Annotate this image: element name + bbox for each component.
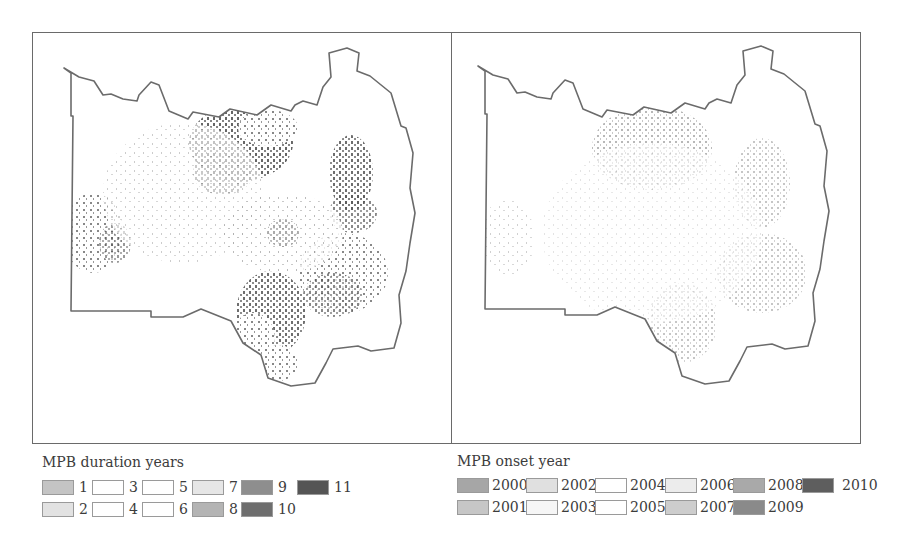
swatch — [142, 480, 174, 495]
legend-label: 6 — [179, 501, 188, 517]
legend-label: 7 — [229, 479, 238, 495]
swatch — [241, 502, 273, 517]
legend-label: 2000 — [492, 477, 528, 493]
swatch — [733, 478, 765, 493]
onset-legend-item-2005: 2005 — [595, 499, 666, 515]
swatch — [595, 500, 627, 515]
duration-legend-item-1: 1 — [42, 479, 88, 495]
legend-label: 2010 — [842, 477, 878, 493]
legend-label: 2006 — [700, 477, 736, 493]
onset-legend-item-2000: 2000 — [457, 477, 528, 493]
duration-legend-item-5: 5 — [142, 479, 188, 495]
legend-label: 9 — [278, 479, 287, 495]
duration-map — [33, 33, 453, 445]
legend-label: 2009 — [768, 499, 804, 515]
duration-legend-item-2: 2 — [42, 501, 88, 517]
legend-label: 4 — [129, 501, 138, 517]
legend-label: 5 — [179, 479, 188, 495]
swatch — [192, 502, 224, 517]
onset-map-panel — [451, 32, 861, 444]
duration-legend-item-6: 6 — [142, 501, 188, 517]
duration-legend-item-7: 7 — [192, 479, 238, 495]
onset-legend-item-2007: 2007 — [665, 499, 736, 515]
duration-legend-item-3: 3 — [92, 479, 138, 495]
onset-legend-item-2003: 2003 — [526, 499, 597, 515]
duration-map-panel — [32, 32, 452, 444]
swatch — [595, 478, 627, 493]
onset-map — [452, 33, 862, 445]
legend-label: 2007 — [700, 499, 736, 515]
legend-label: 2002 — [561, 477, 597, 493]
swatch — [457, 500, 489, 515]
swatch — [42, 502, 74, 517]
figure: MPB duration years 1 2 3 4 5 6 7 — [0, 0, 899, 548]
duration-legend-item-9: 9 — [241, 479, 287, 495]
legend-label: 2003 — [561, 499, 597, 515]
legend-label: 11 — [334, 479, 352, 495]
legend-label: 1 — [79, 479, 88, 495]
legend-label: 2001 — [492, 499, 528, 515]
swatch — [733, 500, 765, 515]
onset-legend-item-2009: 2009 — [733, 499, 804, 515]
onset-legend-item-2008: 2008 — [733, 477, 804, 493]
duration-legend-item-11: 11 — [297, 479, 352, 495]
swatch — [42, 480, 74, 495]
legend-label: 3 — [129, 479, 138, 495]
swatch — [192, 480, 224, 495]
duration-legend-item-10: 10 — [241, 501, 296, 517]
legend-label: 2004 — [630, 477, 666, 493]
swatch — [241, 480, 273, 495]
legend-label: 8 — [229, 501, 238, 517]
swatch — [526, 500, 558, 515]
swatch — [142, 502, 174, 517]
swatch — [802, 478, 834, 493]
swatch — [297, 480, 329, 495]
swatch — [526, 478, 558, 493]
onset-legend-item-2001: 2001 — [457, 499, 528, 515]
swatch — [457, 478, 489, 493]
swatch — [92, 480, 124, 495]
onset-legend-title: MPB onset year — [457, 453, 570, 469]
swatch — [92, 502, 124, 517]
legend-label: 10 — [278, 501, 296, 517]
legend-label: 2008 — [768, 477, 804, 493]
duration-legend-item-4: 4 — [92, 501, 138, 517]
swatch — [665, 500, 697, 515]
duration-legend-item-8: 8 — [192, 501, 238, 517]
onset-legend-item-2006: 2006 — [665, 477, 736, 493]
duration-legend-title: MPB duration years — [42, 454, 184, 470]
legend-label: 2 — [79, 501, 88, 517]
onset-legend-item-2002: 2002 — [526, 477, 597, 493]
legend-label: 2005 — [630, 499, 666, 515]
swatch — [665, 478, 697, 493]
onset-legend-item-2010: 2010 — [802, 477, 878, 493]
onset-legend-item-2004: 2004 — [595, 477, 666, 493]
